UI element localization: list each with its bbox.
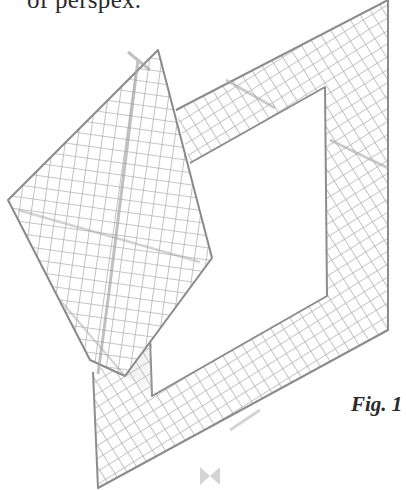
bowtie-ornament-icon	[199, 466, 221, 486]
folded-perspex-illustration	[0, 0, 406, 490]
perspex-sheet	[8, 50, 212, 376]
figure-label: Fig. 1	[351, 392, 402, 417]
